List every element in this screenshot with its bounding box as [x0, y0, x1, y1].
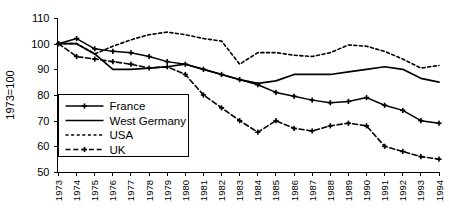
legend-label: West Germany	[110, 115, 187, 127]
data-point	[146, 54, 151, 59]
data-point	[310, 98, 315, 103]
data-point	[110, 49, 115, 54]
x-tick-label: 1980	[180, 180, 191, 201]
x-tick-label: 1985	[270, 180, 281, 201]
data-point	[273, 90, 278, 95]
series-line	[59, 44, 440, 84]
legend-label: USA	[110, 129, 134, 141]
data-point	[146, 65, 151, 70]
y-tick-label: 90	[37, 63, 49, 75]
data-point	[128, 62, 133, 67]
data-point	[346, 99, 351, 104]
x-tick-label: 1988	[325, 180, 336, 201]
data-point	[128, 50, 133, 55]
x-axis-ticks: 1973197419751976197719781979198019811982…	[53, 172, 445, 201]
data-point	[165, 64, 170, 69]
x-tick-label: 1987	[307, 180, 318, 201]
legend-label: UK	[110, 144, 126, 156]
chart-container: 1973=100 5060708090100110 19731974197519…	[0, 0, 449, 213]
x-tick-label: 1981	[198, 180, 209, 201]
data-point	[418, 154, 423, 159]
data-point	[382, 103, 387, 108]
x-tick-label: 1993	[415, 180, 426, 201]
y-tick-label: 50	[37, 166, 49, 178]
data-point	[328, 123, 333, 128]
series-usa	[59, 32, 440, 68]
y-tick-label: 110	[32, 12, 50, 24]
data-point	[328, 100, 333, 105]
x-tick-label: 1977	[125, 180, 136, 201]
x-tick-label: 1991	[379, 180, 390, 201]
data-point	[291, 94, 296, 99]
data-point	[291, 126, 296, 131]
x-tick-label: 1982	[216, 180, 227, 201]
x-tick-label: 1986	[289, 180, 300, 201]
line-chart: 1973=100 5060708090100110 19731974197519…	[0, 0, 449, 213]
x-tick-label: 1978	[144, 180, 155, 201]
y-tick-label: 70	[37, 115, 49, 127]
x-tick-label: 1984	[252, 180, 263, 201]
legend-label: France	[110, 100, 146, 112]
series-west-germany	[59, 44, 440, 84]
data-point	[310, 128, 315, 133]
x-tick-label: 1989	[343, 180, 354, 201]
x-tick-label: 1973	[53, 180, 64, 201]
y-tick-label: 80	[37, 89, 49, 101]
y-tick-label: 100	[31, 38, 49, 50]
x-tick-label: 1992	[397, 180, 408, 201]
y-axis-title-label: 1973=100	[4, 70, 16, 119]
x-tick-label: 1975	[89, 180, 100, 201]
x-tick-label: 1983	[234, 180, 245, 201]
x-tick-label: 1994	[434, 180, 445, 201]
data-point	[92, 56, 97, 61]
x-tick-label: 1990	[361, 180, 372, 201]
data-point	[364, 95, 369, 100]
chart-legend: FranceWest GermanyUSAUK	[58, 95, 188, 157]
data-point	[346, 121, 351, 126]
data-point	[400, 149, 405, 154]
x-tick-label: 1979	[162, 180, 173, 201]
series-line	[59, 32, 440, 68]
data-point	[165, 59, 170, 64]
x-tick-label: 1974	[71, 180, 82, 201]
x-tick-label: 1976	[107, 180, 118, 201]
data-point	[436, 157, 441, 162]
y-axis-ticks: 5060708090100110	[31, 12, 57, 178]
data-point	[436, 121, 441, 126]
y-axis-title: 1973=100	[4, 70, 16, 119]
data-point	[110, 59, 115, 64]
y-tick-label: 60	[37, 140, 49, 152]
